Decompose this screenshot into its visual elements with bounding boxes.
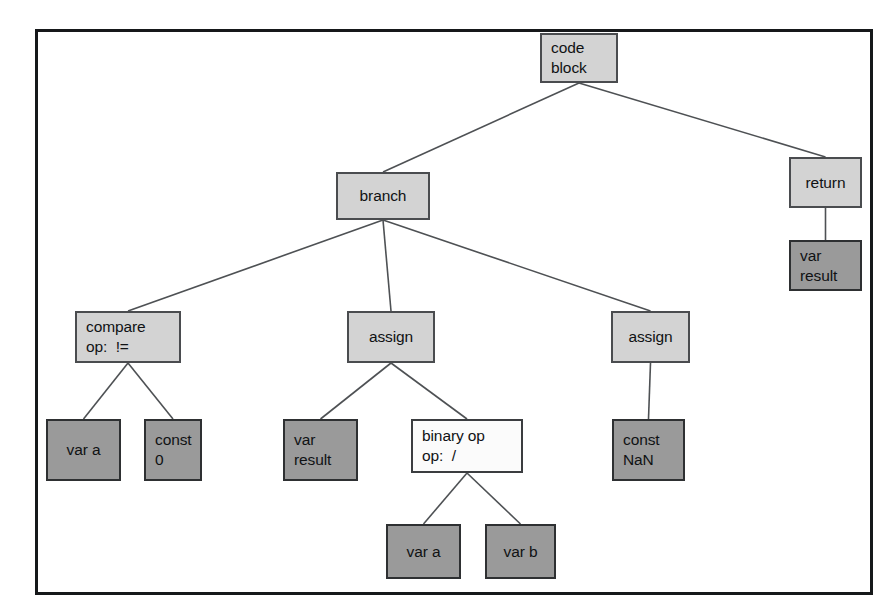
node-label-secondary: op: != bbox=[86, 337, 129, 357]
scan-artifact-top bbox=[0, 0, 889, 14]
node-label-secondary: block bbox=[551, 58, 587, 78]
node-label-primary: const bbox=[155, 430, 192, 450]
node-label-secondary: NaN bbox=[623, 450, 654, 470]
ast-node-const-0[interactable]: const0 bbox=[144, 419, 202, 481]
ast-node-binary-op[interactable]: binary opop: / bbox=[411, 419, 523, 473]
node-label-primary: var b bbox=[504, 542, 538, 562]
node-label-primary: var a bbox=[67, 440, 101, 460]
ast-node-assign-mid[interactable]: assign bbox=[347, 311, 435, 363]
node-label-primary: branch bbox=[360, 186, 407, 206]
node-label-secondary: result bbox=[800, 266, 837, 286]
ast-node-assign-right[interactable]: assign bbox=[611, 311, 690, 363]
node-label-primary: assign bbox=[369, 327, 413, 347]
node-label-primary: var bbox=[294, 430, 315, 450]
ast-node-var-a-1[interactable]: var a bbox=[46, 419, 121, 481]
node-label-primary: assign bbox=[628, 327, 672, 347]
node-label-primary: return bbox=[806, 173, 846, 193]
ast-node-compare[interactable]: compareop: != bbox=[75, 311, 181, 363]
ast-node-var-result-r[interactable]: varresult bbox=[789, 240, 862, 291]
node-label-secondary: result bbox=[294, 450, 331, 470]
node-label-primary: var bbox=[800, 246, 821, 266]
node-label-primary: var a bbox=[407, 542, 441, 562]
ast-node-var-a-2[interactable]: var a bbox=[386, 524, 461, 579]
node-label-primary: compare bbox=[86, 317, 146, 337]
ast-node-branch[interactable]: branch bbox=[336, 172, 430, 220]
node-label-primary: const bbox=[623, 430, 660, 450]
node-label-primary: binary op bbox=[422, 426, 485, 446]
diagram-canvas: codeblockbranchreturnvarresultcompareop:… bbox=[0, 0, 889, 609]
ast-node-var-result-m[interactable]: varresult bbox=[283, 419, 358, 481]
ast-node-const-nan[interactable]: constNaN bbox=[612, 419, 685, 481]
node-label-secondary: op: / bbox=[422, 446, 456, 466]
ast-node-code-block[interactable]: codeblock bbox=[540, 33, 618, 83]
ast-node-return[interactable]: return bbox=[789, 157, 862, 208]
node-label-secondary: 0 bbox=[155, 450, 164, 470]
ast-node-var-b[interactable]: var b bbox=[485, 524, 556, 579]
node-label-primary: code bbox=[551, 38, 584, 58]
